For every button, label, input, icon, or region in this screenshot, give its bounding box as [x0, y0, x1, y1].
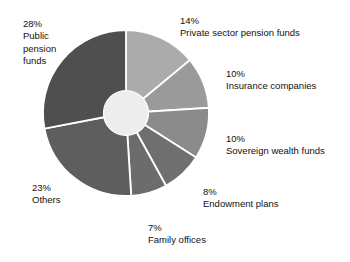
slice-label-endowment-plans: 8% Endowment plans — [203, 186, 279, 211]
slice-name-private-sector-pension-funds: Private sector pension funds — [180, 27, 300, 39]
slice-percent-sovereign-wealth-funds: 10% — [226, 133, 325, 145]
slice-name-family-offices: Family offices — [148, 234, 206, 246]
slice-label-public-pension-funds: 28% Public pension funds — [23, 18, 56, 68]
slice-percent-family-offices: 7% — [148, 222, 206, 234]
slice-label-insurance-companies: 10% Insurance companies — [226, 68, 316, 93]
pie-chart-figure: 28% Public pension funds 14% Private sec… — [0, 0, 350, 262]
donut-center-hole — [104, 91, 149, 136]
slice-label-sovereign-wealth-funds: 10% Sovereign wealth funds — [226, 133, 325, 158]
slice-name-others: Others — [32, 194, 61, 206]
slice-label-family-offices: 7% Family offices — [148, 222, 206, 247]
slice-name-sovereign-wealth-funds: Sovereign wealth funds — [226, 145, 325, 157]
slice-percent-public-pension-funds: 28% — [23, 18, 56, 30]
slice-percent-insurance-companies: 10% — [226, 68, 316, 80]
slice-percent-others: 23% — [32, 182, 61, 194]
slice-label-others: 23% Others — [32, 182, 61, 207]
slice-percent-private-sector-pension-funds: 14% — [180, 15, 300, 27]
slice-label-private-sector-pension-funds: 14% Private sector pension funds — [180, 15, 300, 40]
slice-name-endowment-plans: Endowment plans — [203, 198, 279, 210]
slice-name-public-pension-funds: Public pension funds — [23, 30, 56, 67]
slice-name-insurance-companies: Insurance companies — [226, 80, 316, 92]
slice-percent-endowment-plans: 8% — [203, 186, 279, 198]
